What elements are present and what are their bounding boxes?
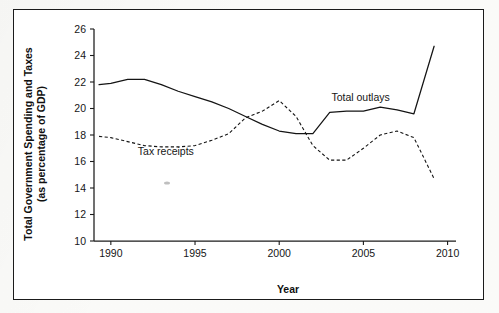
x-axis-title: Year [277,283,299,295]
x-tick-label: 2000 [268,247,292,259]
y-tick-label: 24 [74,49,86,61]
y-tick-label: 20 [74,102,86,114]
y-tick-label: 26 [74,23,86,35]
y-axis-title-line1: Total Government Spending and Taxes [22,47,34,240]
x-tick-label: 2010 [436,247,460,259]
series-total-outlays-label: Total outlays [331,91,389,103]
figure-frame: 101214161820222426 19901995200020052010 … [13,9,484,300]
y-tick-label: 10 [74,235,86,247]
series-tax-receipts-label: Tax receipts [138,145,194,157]
scan-speck-artifact [164,181,170,184]
y-axis-tick-labels: 101214161820222426 [74,23,86,247]
x-axis-tick-labels: 19901995200020052010 [99,247,459,259]
y-tick-label: 18 [74,129,86,141]
x-tick-label: 2005 [352,247,376,259]
y-tick-label: 14 [74,182,86,194]
line-chart: 101214161820222426 19901995200020052010 … [14,10,483,299]
x-tick-label: 1995 [183,247,207,259]
y-tick-label: 16 [74,155,86,167]
x-tick-label: 1990 [99,247,123,259]
y-tick-label: 22 [74,76,86,88]
screenshot-page: 101214161820222426 19901995200020052010 … [0,0,499,313]
series-tax-receipts-line [99,101,434,179]
y-tick-label: 12 [74,208,86,220]
y-axis-title-line2: (as percentage of GDP) [35,86,47,202]
